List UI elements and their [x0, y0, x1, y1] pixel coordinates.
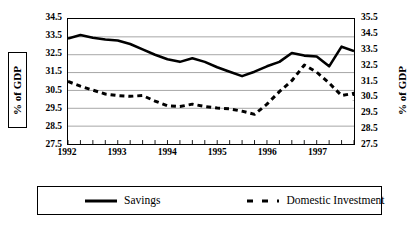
y-tick-label-left: 34.5 [45, 13, 62, 23]
y-tick-label-right: 29.5 [361, 108, 378, 118]
y-tick-label-right: 32.5 [361, 61, 378, 71]
legend-label-domestic-investment: Domestic Investment [286, 195, 384, 207]
y-tick-label-right: 30.5 [361, 92, 378, 102]
x-tick-label: 1996 [258, 148, 277, 158]
legend-swatch-dashed-icon [246, 195, 280, 207]
y-tick-label-right: 35.5 [361, 13, 378, 23]
y-tick-label-right: 31.5 [361, 77, 378, 87]
y-tick-label-left: 28.5 [45, 122, 62, 132]
legend-label-savings: Savings [124, 195, 160, 207]
x-tick-label: 1994 [158, 148, 177, 158]
chart-figure: % of GDP % of GDP 34.533.532.531.530.529… [0, 0, 419, 227]
y-tick-label-left: 33.5 [45, 31, 62, 41]
x-tick-label: 1995 [208, 148, 227, 158]
y-tick-label-right: 27.5 [361, 140, 378, 150]
y-axis-title-left: % of GDP [8, 52, 27, 128]
y-tick-label-right: 28.5 [361, 124, 378, 134]
y-tick-label-left: 30.5 [45, 86, 62, 96]
legend: Savings Domestic Investment [37, 186, 382, 215]
x-axis-tickmarks [68, 140, 354, 144]
y-tick-label-left: 32.5 [45, 49, 62, 59]
y-tick-label-left: 31.5 [45, 67, 62, 77]
y-axis-title-left-text: % of GDP [12, 66, 23, 115]
x-tick-label: 1992 [58, 148, 77, 158]
plot-svg [68, 19, 354, 144]
plot-area [67, 18, 355, 145]
y-axis-title-right: % of GDP [393, 52, 412, 128]
y-tick-label-right: 33.5 [361, 45, 378, 55]
y-tick-label-right: 34.5 [361, 29, 378, 39]
gridlines [68, 37, 354, 126]
legend-item-savings: Savings [84, 187, 160, 214]
x-tick-label: 1993 [108, 148, 127, 158]
x-axis-labels: 199219931994199519961997 [67, 148, 355, 162]
legend-swatch-solid-icon [84, 195, 118, 207]
x-tick-label: 1997 [308, 148, 327, 158]
y-tick-label-left: 29.5 [45, 104, 62, 114]
series-layer [68, 35, 354, 114]
legend-item-domestic-investment: Domestic Investment [246, 187, 384, 214]
y-axis-title-right-text: % of GDP [397, 66, 408, 115]
